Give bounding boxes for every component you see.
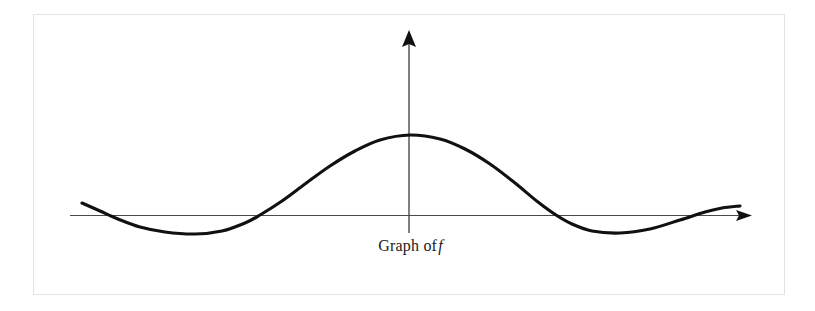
graph-caption: Graph off	[0, 236, 815, 256]
caption-prefix-text: Graph of	[378, 237, 437, 254]
function-curve-f	[82, 135, 740, 234]
graph-plot	[0, 0, 815, 311]
figure-root: Graph off	[0, 0, 815, 311]
caption-function-symbol: f	[437, 237, 443, 254]
